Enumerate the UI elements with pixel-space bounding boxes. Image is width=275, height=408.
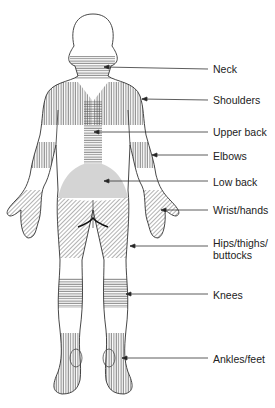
label-neck: Neck xyxy=(213,63,237,75)
label-low-back: Low back xyxy=(213,176,257,188)
label-upper-back: Upper back xyxy=(213,126,267,138)
label-hips-thighs-buttocks: Hips/thighs/ buttocks xyxy=(213,237,275,261)
label-wrist-hands: Wrist/hands xyxy=(213,204,268,216)
label-knees: Knees xyxy=(213,289,243,301)
label-elbows: Elbows xyxy=(213,150,247,162)
label-ankles-feet: Ankles/feet xyxy=(213,353,265,365)
region-fills xyxy=(0,56,186,403)
label-shoulders: Shoulders xyxy=(213,94,260,106)
